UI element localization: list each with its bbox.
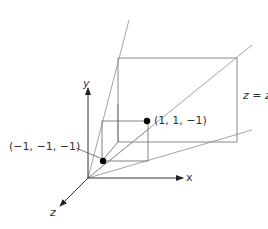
far-plane-rect [118,58,237,142]
ray-bottom-left [88,128,150,178]
point-max-corner [144,118,150,124]
z-axis [60,178,88,206]
plane-label: z = zmin [243,90,268,104]
point-min-label: (−1, −1, −1) [9,141,80,152]
ray-top-left [88,20,129,178]
plane-label-rhs: z [265,89,268,102]
y-axis-label: y [83,78,90,89]
canonical-cube [102,104,148,161]
x-axis-label: x [186,172,193,183]
z-axis-label: z [50,207,56,218]
ray-bottom-right [88,130,252,178]
diagram-canvas [0,0,268,229]
cube-front-face [102,121,148,161]
point-max-label: (1, 1, −1) [154,115,207,126]
point-min-corner [100,158,106,164]
frustum-diagram: y x z (−1, −1, −1) (1, 1, −1) z = zmin [0,0,268,229]
frustum-rays [88,20,252,178]
plane-label-eq: = [249,89,265,102]
